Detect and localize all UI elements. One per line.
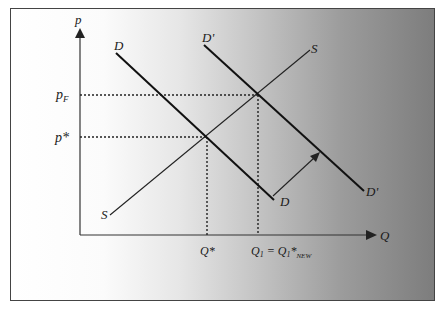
demand-curve-original: D D <box>113 38 290 209</box>
pF-label: pF <box>55 87 69 104</box>
q-star-label: Q* <box>200 244 215 258</box>
supply-label-bottom: S <box>101 207 108 222</box>
price-labels: pF p* <box>54 87 69 145</box>
y-axis-arrow-icon <box>75 28 85 38</box>
x-axis-arrow-icon <box>366 230 377 240</box>
p-star-label: p* <box>54 130 69 145</box>
demand-curve-shifted: D' D' <box>201 30 378 199</box>
demand-shift-arrow <box>273 152 320 196</box>
y-axis-label: p <box>74 12 82 27</box>
demand-label-top: D <box>113 38 124 53</box>
y-axis: p <box>74 12 85 235</box>
quantity-labels: Q* Q1 = Q1*NEW <box>200 244 312 260</box>
x-axis-label: Q <box>380 228 390 243</box>
demand-shifted-label-bottom: D' <box>365 184 378 199</box>
supply-demand-diagram: p Q S S D D D' D' pF p* Q <box>0 0 444 311</box>
demand-label-bottom: D <box>279 194 290 209</box>
x-axis: Q <box>80 228 390 243</box>
demand-shifted-label-top: D' <box>201 30 214 45</box>
q1-label: Q1 = Q1*NEW <box>251 244 312 260</box>
supply-label-top: S <box>311 41 318 56</box>
